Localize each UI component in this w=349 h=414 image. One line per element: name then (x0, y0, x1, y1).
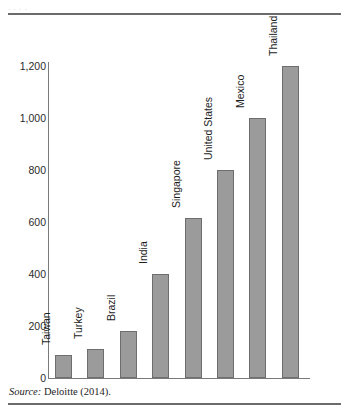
bar-series: TaiwanTurkeyBrazilIndiaSingaporeUnited S… (49, 14, 310, 386)
bar-thailand (282, 66, 299, 378)
bar-group: Brazil (114, 22, 143, 378)
bar-label-india: India (135, 247, 152, 264)
bar-label-taiwan: Taiwan (38, 328, 55, 345)
bar-label-thailand: Thailand (265, 39, 282, 56)
bar-india (152, 274, 169, 378)
y-axis-tick-400: 400 (2, 268, 46, 280)
bar-chart: 02004006008001,0001,200 TaiwanTurkeyBraz… (0, 14, 349, 386)
bar-label-united-states: United States (200, 143, 217, 160)
y-axis-tick-1000: 1,000 (2, 112, 46, 124)
y-axis-tick-600: 600 (2, 216, 46, 228)
bar-singapore (185, 218, 202, 378)
bar-label-mexico: Mexico (232, 91, 249, 108)
bar-group: Singapore (179, 22, 208, 378)
bar-group: Thailand (276, 22, 305, 378)
figure-bottom-rule (8, 403, 341, 405)
bar-label-turkey: Turkey (70, 322, 87, 339)
figure-page: · · · · 02004006008001,0001,200 TaiwanTu… (0, 0, 349, 414)
bar-group: Turkey (81, 22, 110, 378)
bar-turkey (87, 349, 104, 378)
page-bleed-text: · · · · (8, 0, 341, 11)
bar-brazil (120, 331, 137, 378)
y-axis-tick-1200: 1,200 (2, 60, 46, 72)
bar-taiwan (55, 355, 72, 378)
y-axis-tick-0: 0 (2, 372, 46, 384)
source-note-text: Deloitte (2014). (44, 386, 111, 397)
bar-mexico (249, 118, 266, 378)
bar-label-brazil: Brazil (103, 304, 120, 321)
bar-label-singapore: Singapore (168, 191, 185, 208)
y-axis-tick-800: 800 (2, 164, 46, 176)
source-note: Source: Deloitte (2014). (9, 386, 111, 397)
source-note-label: Source: (9, 386, 41, 397)
bar-united-states (217, 170, 234, 378)
bar-group: Mexico (243, 22, 272, 378)
page-bleed-text-value: · · · · (8, 5, 27, 11)
